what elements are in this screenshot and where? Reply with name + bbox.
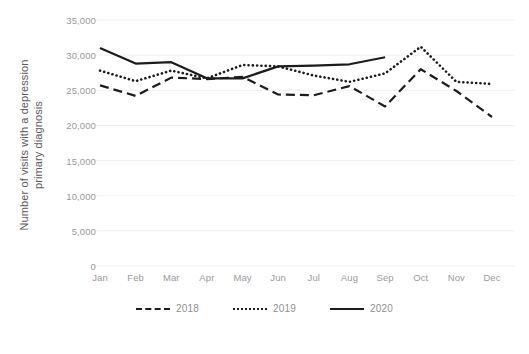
legend-label: 2019	[273, 303, 296, 314]
y-axis-tick-label: 5,000	[72, 225, 96, 236]
x-axis-tick-label: Aug	[341, 272, 358, 283]
y-axis-tick-label: 25,000	[66, 85, 96, 96]
x-axis-tick-label: Sep	[376, 272, 393, 283]
y-axis-tick-label: 35,000	[66, 15, 96, 26]
x-axis-tick-label: Jun	[270, 272, 286, 283]
chart-legend: 201820192020	[0, 303, 529, 314]
x-axis-tick-label: Mar	[163, 272, 180, 283]
legend-item-2019[interactable]: 2019	[233, 303, 296, 314]
y-axis-tick-label: 30,000	[66, 50, 96, 61]
legend-swatch-icon	[233, 308, 267, 310]
line-chart: Number of visits with a depression prima…	[0, 0, 529, 354]
series-layer	[100, 47, 492, 117]
y-axis-tick-labels: 35,00030,00025,00020,00015,00010,0005,00…	[48, 0, 96, 354]
y-axis-title-line-1: Number of visits with a depression	[17, 35, 31, 255]
legend-item-2018[interactable]: 2018	[136, 303, 199, 314]
x-axis-tick-label: May	[233, 272, 251, 283]
x-axis-tick-label: Apr	[199, 272, 214, 283]
x-axis-tick-label: Jan	[92, 272, 108, 283]
gridlines	[95, 20, 515, 266]
legend-label: 2020	[370, 303, 393, 314]
legend-label: 2018	[176, 303, 199, 314]
series-line-2018	[100, 69, 492, 117]
y-axis-tick-label: 15,000	[66, 155, 96, 166]
y-axis-tick-label: 20,000	[66, 120, 96, 131]
y-axis-tick-label: 10,000	[66, 190, 96, 201]
x-axis-tick-label: Dec	[483, 272, 500, 283]
series-line-2020	[100, 48, 385, 78]
x-axis-tick-label: Oct	[413, 272, 428, 283]
x-axis-tick-label: Feb	[127, 272, 144, 283]
y-axis-title-line-2: primary diagnosis	[31, 35, 45, 255]
y-axis-tick-label: 0	[91, 261, 96, 272]
x-axis-tick-label: Nov	[448, 272, 465, 283]
y-axis-title: Number of visits with a depression prima…	[17, 35, 45, 255]
legend-swatch-icon	[330, 308, 364, 310]
legend-item-2020[interactable]: 2020	[330, 303, 393, 314]
legend-swatch-icon	[136, 308, 170, 310]
x-axis-tick-label: Jul	[308, 272, 320, 283]
